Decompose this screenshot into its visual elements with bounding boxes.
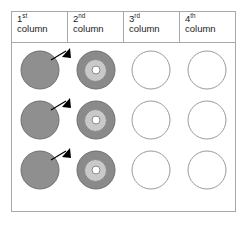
solid-gray-disc bbox=[20, 51, 59, 90]
cell-row2-col3 bbox=[124, 95, 180, 145]
target-core bbox=[91, 166, 100, 175]
empty-circle bbox=[188, 51, 227, 90]
column-header-row: 1st column 2nd column 3rd column 4th col… bbox=[12, 12, 235, 43]
target-middle-ring bbox=[84, 59, 107, 82]
figure-panel: 1st column 2nd column 3rd column 4th col… bbox=[11, 11, 236, 212]
cell-row3-col4 bbox=[179, 145, 235, 195]
cell-row2-col2 bbox=[68, 95, 124, 145]
diagram-row bbox=[12, 145, 235, 195]
target-middle-ring bbox=[84, 109, 107, 132]
cell-row1-col1 bbox=[12, 45, 68, 95]
column-header-3: 3rd column bbox=[124, 12, 180, 42]
cell-row2-col4 bbox=[179, 95, 235, 145]
diagram-row bbox=[12, 95, 235, 145]
figure-body bbox=[12, 43, 235, 211]
column-header-1: 1st column bbox=[12, 12, 68, 42]
column-header-1-suffix: st bbox=[22, 12, 27, 19]
column-header-4-suffix: th bbox=[190, 12, 195, 19]
empty-circle bbox=[188, 151, 227, 190]
target-middle-ring bbox=[84, 159, 107, 182]
column-header-1-word: column bbox=[17, 24, 67, 34]
cell-row3-col3 bbox=[124, 145, 180, 195]
target-core bbox=[91, 66, 100, 75]
concentric-target-disc bbox=[76, 51, 115, 90]
column-header-2: 2nd column bbox=[68, 12, 124, 42]
concentric-target-disc bbox=[76, 151, 115, 190]
column-header-4: 4th column bbox=[180, 12, 235, 42]
cell-row1-col2 bbox=[68, 45, 124, 95]
column-header-3-word: column bbox=[129, 24, 179, 34]
column-header-2-suffix: nd bbox=[78, 12, 85, 19]
cell-row3-col1 bbox=[12, 145, 68, 195]
diagram-row bbox=[12, 45, 235, 95]
column-header-4-word: column bbox=[185, 24, 235, 34]
concentric-target-disc bbox=[76, 101, 115, 140]
empty-circle bbox=[132, 51, 171, 90]
target-core bbox=[91, 116, 100, 125]
cell-row2-col1 bbox=[12, 95, 68, 145]
solid-gray-disc bbox=[20, 101, 59, 140]
column-header-3-suffix: rd bbox=[134, 12, 140, 19]
column-header-2-word: column bbox=[73, 24, 123, 34]
solid-gray-disc bbox=[20, 151, 59, 190]
cell-row1-col4 bbox=[179, 45, 235, 95]
cell-row1-col3 bbox=[124, 45, 180, 95]
cell-row3-col2 bbox=[68, 145, 124, 195]
empty-circle bbox=[188, 101, 227, 140]
empty-circle bbox=[132, 151, 171, 190]
empty-circle bbox=[132, 101, 171, 140]
